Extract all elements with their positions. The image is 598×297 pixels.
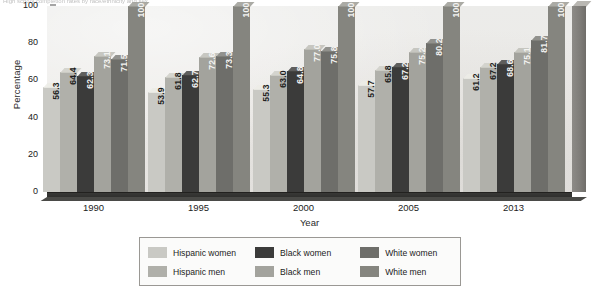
legend-swatch-icon (148, 247, 167, 258)
legend-swatch-icon (255, 266, 274, 277)
bar-face (111, 59, 128, 192)
legend-swatch-icon (360, 266, 379, 277)
bar-2005-black-men: 75.2 (409, 52, 426, 192)
bar-face (443, 6, 460, 192)
y-tick-label-80: 80 (10, 37, 38, 47)
bar-groups: 56.364.462.373.171.510053.961.862.772.67… (47, 6, 572, 192)
bar-2005-hispanic-men: 65.8 (375, 70, 392, 192)
bar-face (94, 56, 111, 192)
bar-1995-black-women: 62.7 (182, 75, 199, 192)
bar-face (548, 6, 565, 192)
bar-2013-black-women: 68.6 (497, 64, 514, 192)
y-tick-label-100: 100 (10, 0, 38, 10)
bar-2000-hispanic-men: 63.0 (270, 75, 287, 192)
bar-group-2000: 55.363.064.877.075.8100 (253, 6, 355, 192)
bar-1995-hispanic-women: 53.9 (148, 92, 165, 192)
x-tick-label-1990: 1990 (83, 202, 104, 213)
bar-1995-black-men: 72.6 (199, 57, 216, 192)
x-axis-tick-labels: 19901995200020052013 (47, 202, 572, 218)
bar-group-1990: 56.364.462.373.171.5100 (43, 6, 145, 192)
bar-2013-white-women: 81.7 (531, 40, 548, 192)
bar-face (480, 67, 497, 192)
bar-value-label: 100 (241, 3, 251, 18)
bar-1995-white-men: 100 (233, 6, 250, 192)
bar-2000-white-women: 75.8 (321, 51, 338, 192)
bar-2000-black-women: 64.8 (287, 71, 304, 192)
bar-face (165, 77, 182, 192)
bar-face (514, 52, 531, 192)
bar-2013-black-men: 75.1 (514, 52, 531, 192)
bar-group-2013: 61.267.268.675.181.7100 (463, 6, 565, 192)
plot-area: 56.364.462.373.171.510053.961.862.772.67… (47, 6, 587, 192)
x-tick-label-1995: 1995 (188, 202, 209, 213)
bar-1990-black-men: 73.1 (94, 56, 111, 192)
bar-face (338, 6, 355, 192)
bar-1990-hispanic-men: 64.4 (60, 72, 77, 192)
x-tick-label-2000: 2000 (293, 202, 314, 213)
y-tick-label-40: 40 (10, 112, 38, 122)
bar-2013-white-men: 100 (548, 6, 565, 192)
bar-face (60, 72, 77, 192)
bar-face (304, 49, 321, 192)
x-axis-line (47, 192, 572, 193)
x-axis-title: Year (47, 217, 572, 228)
page-caption-text: High school completion rates by race/eth… (3, 0, 598, 4)
legend-label: Hispanic men (173, 267, 225, 277)
chart-legend: Hispanic womenBlack womenWhite women His… (139, 237, 461, 286)
bar-face (233, 6, 250, 192)
x-tick-label-2013: 2013 (503, 202, 524, 213)
bar-value-label: 100 (136, 3, 146, 18)
bar-1990-black-women: 62.3 (77, 76, 94, 192)
bar-face (497, 64, 514, 192)
legend-item-black-men[interactable]: Black men (255, 262, 360, 281)
bar-face (77, 76, 94, 192)
bar-face (216, 56, 233, 192)
bar-face (392, 67, 409, 192)
bar-face (182, 75, 199, 192)
legend-label: White men (385, 267, 426, 277)
bar-group-1995: 53.961.862.772.673.3100 (148, 6, 250, 192)
bar-2000-black-men: 77.0 (304, 49, 321, 192)
legend-item-white-women[interactable]: White women (360, 243, 452, 262)
bar-2005-white-women: 80.2 (426, 43, 443, 192)
legend-item-hispanic-women[interactable]: Hispanic women (148, 243, 255, 262)
bar-2000-hispanic-women: 55.3 (253, 89, 270, 192)
bar-1990-hispanic-women: 56.3 (43, 87, 60, 192)
bar-1990-white-women: 71.5 (111, 59, 128, 192)
bar-face (409, 52, 426, 192)
bar-1995-hispanic-men: 61.8 (165, 77, 182, 192)
legend-item-black-women[interactable]: Black women (255, 243, 360, 262)
bar-face (253, 89, 270, 192)
legend-item-white-men[interactable]: White men (360, 262, 452, 281)
bar-face (148, 92, 165, 192)
legend-label: Black women (280, 248, 331, 258)
bar-group-2005: 57.765.867.275.280.2100 (358, 6, 460, 192)
bar-face (128, 6, 145, 192)
y-axis-ticks: 020406080100 (10, 5, 38, 191)
bar-face (375, 70, 392, 192)
bar-2005-white-men: 100 (443, 6, 460, 192)
plot-3d-side-wall (572, 6, 586, 192)
legend-row-2: Hispanic menBlack menWhite men (148, 262, 452, 281)
bar-2005-hispanic-women: 57.7 (358, 85, 375, 192)
bar-chart: Percentage 020406080100 56.364.462.373.1… (0, 5, 598, 230)
bar-2000-white-men: 100 (338, 6, 355, 192)
bar-value-label: 100 (556, 3, 566, 18)
y-tick-label-60: 60 (10, 74, 38, 84)
legend-swatch-icon (148, 266, 167, 277)
legend-swatch-icon (255, 247, 274, 258)
bar-face (270, 75, 287, 192)
bar-face (426, 43, 443, 192)
legend-swatch-icon (360, 247, 379, 258)
bar-face (321, 51, 338, 192)
y-tick-label-0: 0 (10, 186, 38, 196)
legend-item-hispanic-men[interactable]: Hispanic men (148, 262, 255, 281)
bar-value-label: 100 (451, 3, 461, 18)
bar-face (463, 78, 480, 192)
x-tick-label-2005: 2005 (398, 202, 419, 213)
bar-2013-hispanic-men: 67.2 (480, 67, 497, 192)
bar-face (531, 40, 548, 192)
bar-1990-white-men: 100 (128, 6, 145, 192)
bar-1995-white-women: 73.3 (216, 56, 233, 192)
plot-3d-floor-front (41, 197, 587, 201)
